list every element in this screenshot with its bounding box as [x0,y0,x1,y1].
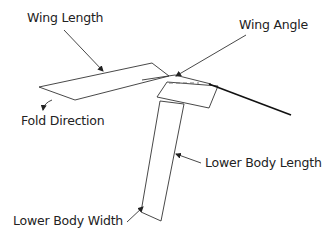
lower-body-length-arrow [176,154,201,163]
wing-shape [39,63,169,100]
fold-direction-label: Fold Direction [21,113,104,128]
wing-angle-label: Wing Angle [239,17,308,32]
wing-edge-line [142,75,175,80]
wing-length-arrow [64,30,103,71]
lower-body-length-label: Lower Body Length [205,155,322,170]
lower-body-width-label: Lower Body Width [13,213,123,228]
fold-direction-arrow [43,100,52,110]
lower-body-width-arrow [127,207,143,222]
wing-angle-arrow [176,35,246,76]
wing-length-label: Wing Length [27,10,103,25]
lower-body-shape [141,101,184,221]
folded-wing-line [209,84,291,115]
